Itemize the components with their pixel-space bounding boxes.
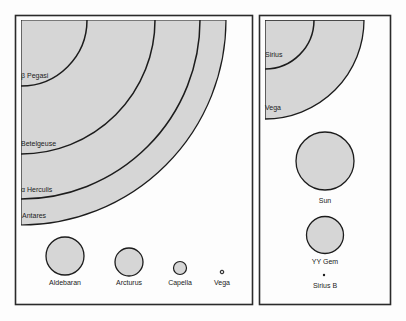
star-size-comparison-diagram: β Pegasi Betelgeuse α Herculis Antares A… [0, 0, 406, 321]
sirius-label: Sirius [265, 51, 283, 58]
left-panel: β Pegasi Betelgeuse α Herculis Antares A… [16, 16, 253, 305]
vega-circle [220, 270, 224, 274]
yy-gem-circle [307, 217, 344, 254]
beta-pegasi-label: β Pegasi [21, 72, 49, 80]
sirius-b-label: Sirius B [313, 282, 337, 289]
alpha-herculis-label: α Herculis [21, 186, 53, 193]
antares-label: Antares [22, 212, 47, 219]
yy-gem-label: YY Gem [312, 258, 338, 265]
arcturus-circle [115, 248, 143, 276]
antares-disk [21, 20, 226, 225]
capella-circle [174, 262, 187, 275]
right-panel: Sirius Vega Sun YY Gem Sirius B [260, 16, 391, 305]
capella-label: Capella [168, 279, 192, 287]
sun-label: Sun [319, 197, 332, 204]
sun-circle [296, 132, 354, 190]
aldebaran-label: Aldebaran [49, 279, 81, 286]
arcturus-label: Arcturus [116, 279, 143, 286]
sirius-b-dot [323, 274, 325, 276]
vega-label: Vega [214, 279, 230, 287]
vega-arc-label: Vega [265, 104, 281, 112]
betelgeuse-label: Betelgeuse [21, 140, 56, 148]
aldebaran-circle [46, 237, 84, 275]
